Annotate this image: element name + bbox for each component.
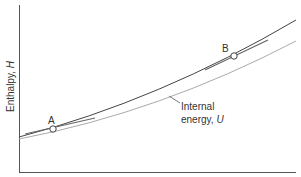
y-axis-label: Enthalpy, H [5,60,16,112]
U-label-leader [169,96,180,103]
point-B-marker [231,53,237,59]
enthalpy-diagram: A B Internal energy, U Enthalpy, H [0,0,301,177]
point-A-marker [50,126,56,132]
U-label-line1: Internal [181,101,214,112]
point-B-label: B [222,43,229,54]
U-label-line2: energy, U [181,114,224,125]
tangent-at-A [25,118,95,134]
enthalpy-curve [19,20,296,137]
point-A-label: A [48,115,55,126]
